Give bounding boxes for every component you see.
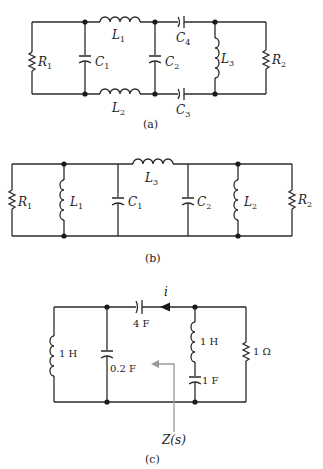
inductor-l1-a	[100, 17, 140, 22]
label-l3-b: L3	[144, 171, 158, 187]
label-r2-a: R2	[271, 53, 286, 69]
label-c2-b: C2	[197, 195, 211, 211]
current-arrow-icon	[160, 303, 170, 312]
node	[82, 19, 87, 24]
label-l1-a: L1	[111, 28, 125, 44]
resistor-r1-a	[29, 52, 35, 71]
node	[61, 233, 66, 238]
label-c2-a: C2	[165, 55, 179, 71]
node	[104, 304, 109, 309]
label-r1-b: R1	[17, 195, 32, 211]
impedance-label: Z(s)	[161, 433, 186, 447]
label-r2-b: R2	[297, 193, 312, 209]
node	[82, 91, 87, 96]
label-l1-b: L1	[69, 195, 83, 211]
inductor-l3-b	[133, 159, 173, 164]
node	[212, 19, 217, 24]
label-c3-a: C3	[176, 103, 190, 119]
label-c1-b: C1	[128, 195, 142, 211]
inductor-l3-a	[215, 38, 219, 78]
node	[235, 161, 240, 166]
capacitor-c4-a	[178, 16, 184, 28]
caption-c: (c)	[145, 453, 160, 466]
circuit-b: R1 L1 C1 L3 C2 L2 R2 (b)	[9, 159, 312, 265]
current-label: i	[164, 285, 168, 299]
label-0-2f: 0.2 F	[110, 363, 136, 374]
node	[192, 399, 197, 404]
label-l2-a: L2	[111, 101, 125, 117]
label-1h-branch: 1 H	[200, 336, 219, 347]
caption-a: (a)	[143, 118, 158, 131]
resistor-1-ohm	[243, 342, 249, 361]
capacitor-4f	[136, 300, 142, 314]
circuit-figure: R1 C1 L1 C2 L2 C4 C3 L3 R2 (a)	[0, 0, 323, 469]
label-1f: 1 F	[202, 375, 219, 386]
label-1h-left: 1 H	[59, 348, 78, 359]
capacitor-c3-a	[178, 88, 184, 100]
resistor-r2-a	[263, 50, 269, 69]
label-r1-a: R1	[37, 55, 52, 71]
label-4f: 4 F	[133, 318, 150, 329]
node	[104, 399, 109, 404]
label-c4-a: C4	[176, 31, 190, 47]
inductor-l2-b	[234, 180, 238, 220]
node	[212, 91, 217, 96]
inductor-l1-b	[60, 180, 64, 220]
label-l3-a: L3	[220, 52, 234, 68]
node	[61, 161, 66, 166]
node	[152, 19, 157, 24]
circuit-c: i 1 H 0.2 F 4 F 1 H 1 F 1 Ω	[50, 285, 271, 466]
caption-b: (b)	[145, 252, 161, 265]
node	[152, 91, 157, 96]
label-1-ohm: 1 Ω	[253, 346, 271, 357]
resistor-r1-b	[9, 190, 15, 209]
label-l2-b: L2	[243, 195, 257, 211]
node	[235, 233, 240, 238]
node	[192, 304, 197, 309]
inductor-1h-left	[50, 336, 54, 376]
impedance-pointer	[156, 364, 174, 432]
circuit-a: R1 C1 L1 C2 L2 C4 C3 L3 R2 (a)	[29, 16, 286, 131]
inductor-1h-branch	[191, 322, 195, 362]
resistor-r2-b	[289, 190, 295, 209]
inductor-l2-a	[100, 89, 140, 94]
label-c1-a: C1	[95, 55, 109, 71]
arrow-left-icon	[151, 360, 159, 368]
